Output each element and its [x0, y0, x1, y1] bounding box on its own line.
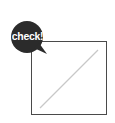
check-badge: check! — [8, 21, 48, 57]
check-label: check! — [8, 30, 47, 42]
